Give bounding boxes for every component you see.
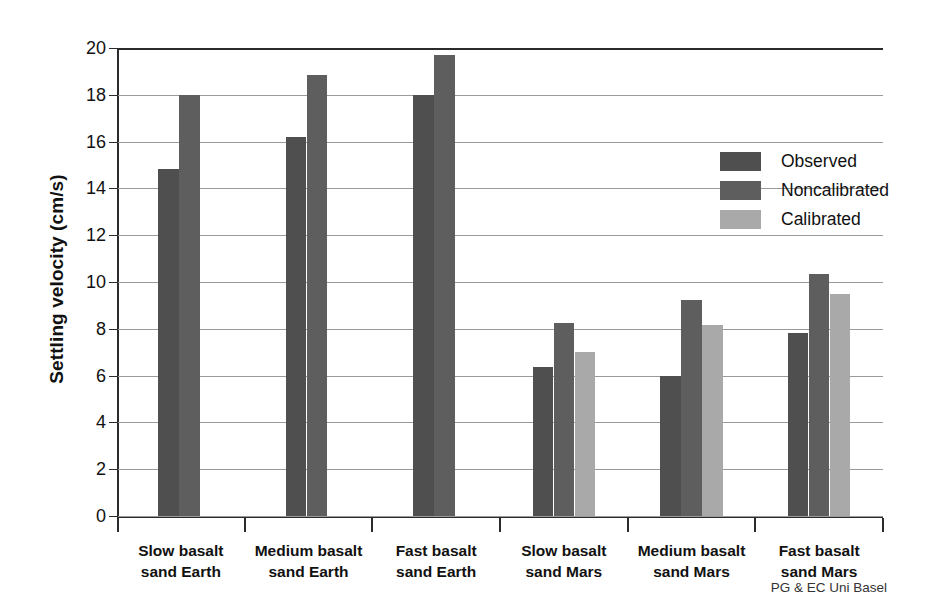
x-axis-category-line: sand Mars <box>747 561 891 582</box>
y-tick-label: 18 <box>86 84 106 105</box>
legend-swatch <box>720 152 761 171</box>
gridline <box>117 282 883 283</box>
y-tick-label: 2 <box>96 459 106 480</box>
y-tick-label: 20 <box>86 38 106 59</box>
gridline <box>117 422 883 423</box>
x-axis-category-label: Fast basaltsand Mars <box>747 540 891 582</box>
y-tick-mark <box>109 142 118 143</box>
x-axis-category-line: sand Earth <box>237 561 381 582</box>
y-tick-label: 8 <box>96 318 106 339</box>
x-axis-category-label: Fast basaltsand Earth <box>364 540 508 582</box>
bar-observed <box>660 376 681 516</box>
x-axis-category-label: Slow basaltsand Mars <box>492 540 636 582</box>
x-axis-category-line: Slow basalt <box>109 540 253 561</box>
bar-noncalibrated <box>809 274 830 516</box>
x-tick-mark <box>754 518 756 532</box>
gridline <box>117 48 883 50</box>
gridline <box>117 516 883 517</box>
x-axis-category-label: Slow basaltsand Earth <box>109 540 253 582</box>
x-axis-category-line: sand Mars <box>492 561 636 582</box>
gridline <box>117 95 883 96</box>
settling-velocity-bar-chart: Settling velocity (cm/s) 024681012141618… <box>0 0 935 614</box>
bar-noncalibrated <box>179 95 200 516</box>
x-axis-category-label: Medium basaltsand Earth <box>237 540 381 582</box>
y-tick-label: 0 <box>96 506 106 527</box>
gridline <box>117 329 883 330</box>
x-tick-mark <box>627 518 629 532</box>
gridline <box>117 376 883 377</box>
chart-legend: ObservedNoncalibratedCalibrated <box>720 147 889 234</box>
y-tick-label: 12 <box>86 225 106 246</box>
x-axis-category-line: sand Mars <box>620 561 764 582</box>
legend-label: Calibrated <box>781 209 861 230</box>
x-axis-category-line: Fast basalt <box>364 540 508 561</box>
y-tick-label: 16 <box>86 131 106 152</box>
bar-noncalibrated <box>554 323 575 516</box>
bar-observed <box>413 95 434 516</box>
bar-calibrated <box>702 325 723 516</box>
credit-text: PG & EC Uni Basel <box>771 580 887 595</box>
legend-swatch <box>720 210 761 229</box>
y-tick-mark <box>109 422 118 423</box>
bar-observed <box>158 169 179 516</box>
plot-area: 02468101214161820 Slow basaltsand EarthM… <box>117 48 883 516</box>
x-tick-mark <box>371 518 373 532</box>
x-tick-mark <box>244 518 246 532</box>
bar-observed <box>286 137 307 516</box>
y-tick-mark <box>109 376 118 377</box>
y-axis-title: Settling velocity (cm/s) <box>46 129 68 429</box>
bar-noncalibrated <box>307 75 328 516</box>
y-tick-label: 14 <box>86 178 106 199</box>
y-tick-mark <box>109 282 118 283</box>
bar-observed <box>788 333 809 516</box>
legend-item: Noncalibrated <box>720 176 889 205</box>
gridline <box>117 142 883 143</box>
y-tick-label: 6 <box>96 365 106 386</box>
legend-label: Observed <box>781 151 857 172</box>
y-tick-mark <box>109 469 118 470</box>
y-tick-mark <box>109 235 118 236</box>
bar-calibrated <box>575 352 596 516</box>
y-tick-mark <box>109 329 118 330</box>
bar-observed <box>533 367 554 516</box>
x-axis-category-line: sand Earth <box>364 561 508 582</box>
x-axis-category-line: Fast basalt <box>747 540 891 561</box>
x-axis-category-label: Medium basaltsand Mars <box>620 540 764 582</box>
bar-calibrated <box>830 294 851 516</box>
x-axis-category-line: Slow basalt <box>492 540 636 561</box>
y-tick-label: 10 <box>86 272 106 293</box>
x-axis-category-line: sand Earth <box>109 561 253 582</box>
bar-noncalibrated <box>434 55 455 516</box>
legend-swatch <box>720 181 761 200</box>
x-tick-mark <box>499 518 501 532</box>
legend-item: Observed <box>720 147 889 176</box>
legend-item: Calibrated <box>720 205 889 234</box>
x-axis-category-line: Medium basalt <box>237 540 381 561</box>
x-axis-category-line: Medium basalt <box>620 540 764 561</box>
legend-label: Noncalibrated <box>781 180 889 201</box>
gridline <box>117 469 883 470</box>
y-tick-mark <box>109 95 118 96</box>
x-tick-mark <box>117 518 119 532</box>
y-tick-mark <box>109 516 118 517</box>
y-tick-mark <box>109 48 118 49</box>
bar-noncalibrated <box>681 300 702 516</box>
y-tick-label: 4 <box>96 412 106 433</box>
x-tick-mark <box>882 518 884 532</box>
y-tick-mark <box>109 188 118 189</box>
gridline <box>117 235 883 236</box>
